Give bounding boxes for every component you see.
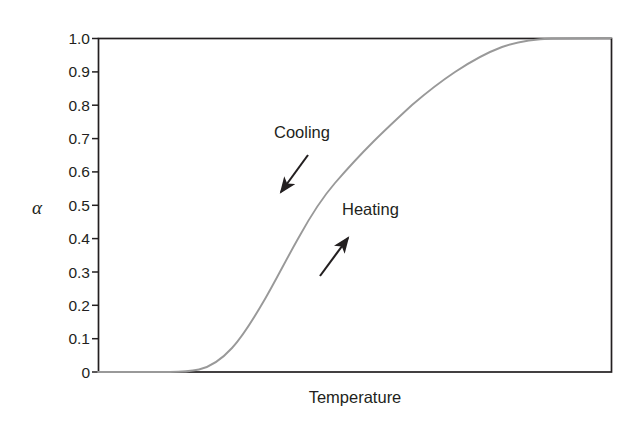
y-tick-label-0-2: 0.2 [30,298,90,314]
heating-arrow-icon [320,238,348,276]
y-tick-label-0-3: 0.3 [30,265,90,281]
chart-canvas [0,0,642,426]
heating-label: Heating [342,201,399,218]
x-axis-title: Temperature [255,389,455,406]
chart-container: 1.0 0.9 0.8 0.7 0.6 0.5 0.4 0.3 0.2 0.1 … [0,0,642,426]
y-tick-label-0-6: 0.6 [30,164,90,180]
y-tick-label-1-0: 1.0 [30,31,90,47]
cooling-arrow-icon [281,155,308,192]
y-tick-label-0-8: 0.8 [30,98,90,114]
y-axis-title: α [32,198,42,217]
y-tick-label-0-7: 0.7 [30,131,90,147]
y-tick-label-0: 0 [30,365,90,381]
y-tick-label-0-1: 0.1 [30,331,90,347]
y-axis-ticks [92,39,99,373]
y-tick-label-0-4: 0.4 [30,231,90,247]
cooling-label: Cooling [274,124,330,141]
y-tick-label-0-9: 0.9 [30,64,90,80]
